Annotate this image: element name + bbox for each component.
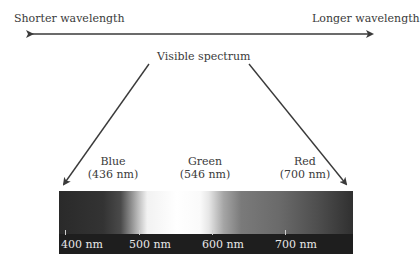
peak-green: Green (546 nm) <box>170 155 240 181</box>
peak-green-name: Green <box>170 155 240 168</box>
visible-spectrum-label: Visible spectrum <box>157 50 251 63</box>
tick-500 <box>139 230 140 235</box>
tick-label-600: 600 nm <box>202 238 244 251</box>
peak-green-value: (546 nm) <box>170 168 240 181</box>
spectrum-bar: 400 nm 500 nm 600 nm 700 nm <box>59 191 353 254</box>
tick-700 <box>285 230 286 235</box>
peak-red-name: Red <box>270 155 340 168</box>
tick-400 <box>65 230 66 235</box>
tick-label-700: 700 nm <box>275 238 317 251</box>
tick-label-500: 500 nm <box>129 238 171 251</box>
peak-blue: Blue (436 nm) <box>83 155 143 181</box>
peak-red: Red (700 nm) <box>270 155 340 181</box>
peak-blue-name: Blue <box>83 155 143 168</box>
peak-red-value: (700 nm) <box>270 168 340 181</box>
wavelength-scale: 400 nm 500 nm 600 nm 700 nm <box>59 234 353 254</box>
peak-blue-value: (436 nm) <box>83 168 143 181</box>
tick-label-400: 400 nm <box>61 238 103 251</box>
tick-600 <box>212 230 213 235</box>
